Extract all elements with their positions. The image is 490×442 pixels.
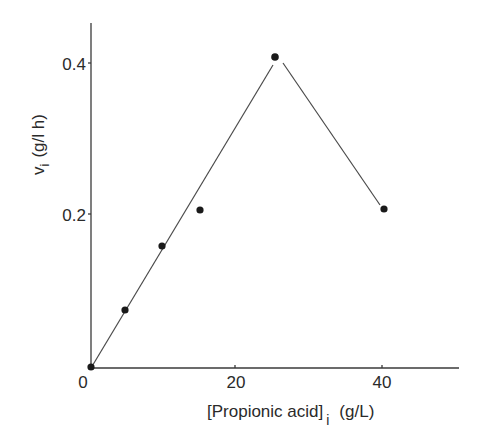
x-tick-label-20: 20 — [227, 373, 246, 392]
x-axis-title: [Propionic acid]i(g/L) — [207, 402, 374, 428]
data-point — [380, 205, 387, 212]
y-title-sub: i — [37, 164, 52, 167]
x-tick-label-40: 40 — [373, 373, 392, 392]
data-point — [271, 53, 279, 61]
x-title-sub: i — [326, 412, 329, 428]
x-title-units: (g/L) — [339, 402, 374, 421]
y-tick-label-0.2: 0.2 — [62, 206, 86, 225]
chart-canvas: 0.4 0.2 0 20 40 vi(g/l h) [Propionic aci… — [0, 0, 490, 442]
data-point — [121, 306, 128, 313]
data-point — [158, 242, 165, 249]
y-title-units: (g/l h) — [29, 114, 48, 157]
data-points — [87, 53, 387, 370]
fit-line-falling — [283, 63, 380, 205]
fit-line-rising — [91, 65, 273, 368]
svg-text:vi(g/l h): vi(g/l h) — [29, 114, 52, 175]
x-title-main: [Propionic acid] — [207, 402, 323, 421]
x-tick-label-0: 0 — [78, 373, 87, 392]
y-tick-label-0.4: 0.4 — [62, 55, 86, 74]
data-point — [87, 363, 94, 370]
data-point — [196, 206, 203, 213]
y-axis-title: vi(g/l h) — [29, 114, 52, 175]
